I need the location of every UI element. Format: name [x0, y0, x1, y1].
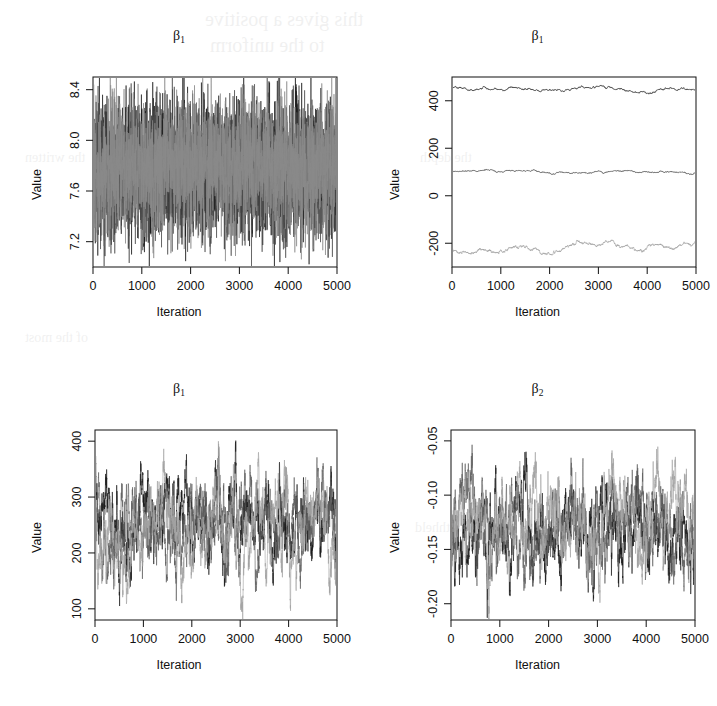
x-tick-label: 0: [92, 632, 99, 646]
trace-line-chain-3: [452, 240, 696, 255]
plot-title: β2: [358, 381, 717, 398]
y-axis-title: Value: [388, 169, 402, 200]
x-tick-label: 0: [449, 279, 456, 293]
x-tick-label: 3000: [226, 632, 254, 646]
panel-bottom-left: 010002000300040005000100200300400β1Itera…: [0, 353, 358, 706]
x-tick-label: 5000: [323, 632, 351, 646]
panel-top-right-canvas: 010002000300040005000-2000200400: [358, 0, 716, 353]
y-tick-label: 300: [70, 487, 84, 508]
x-axis-title: Iteration: [0, 305, 358, 319]
plot-title: β1: [0, 381, 358, 398]
trace-line-chain-3: [95, 441, 337, 623]
plot-title-subscript: 2: [539, 388, 544, 398]
trace-group: [451, 445, 695, 627]
x-tick-label: 4000: [274, 279, 302, 293]
y-tick-label: 8.4: [68, 81, 82, 98]
panel-bottom-right: 010002000300040005000-0.20-0.15-0.10-0.0…: [358, 353, 717, 706]
trace-line-chain-1: [452, 85, 696, 94]
plot-title-subscript: 1: [539, 35, 544, 45]
y-tick-label: -0.10: [426, 481, 440, 510]
trace-group: [452, 85, 696, 255]
x-tick-label: 4000: [633, 279, 661, 293]
y-tick-label: 8.0: [68, 132, 82, 149]
y-tick-label: 400: [427, 90, 441, 111]
x-tick-label: 1000: [128, 279, 156, 293]
x-tick-label: 3000: [583, 632, 611, 646]
x-tick-label: 5000: [681, 632, 709, 646]
panel-top-left: 0100020003000400050007.27.68.08.4β1Itera…: [0, 0, 358, 353]
y-tick-label: 400: [70, 431, 84, 452]
y-tick-label: -0.20: [426, 589, 440, 618]
x-tick-label: 3000: [584, 279, 612, 293]
plot-title-subscript: 1: [180, 35, 185, 45]
trace-line-chain-2: [452, 169, 696, 175]
panel-bottom-left-canvas: 010002000300040005000100200300400: [0, 353, 358, 706]
x-tick-label: 4000: [275, 632, 303, 646]
x-tick-label: 2000: [178, 632, 206, 646]
panel-top-right: 010002000300040005000-2000200400β1Iterat…: [358, 0, 717, 353]
x-tick-label: 2000: [536, 279, 564, 293]
y-tick-label: -0.15: [426, 535, 440, 564]
x-tick-label: 5000: [682, 279, 710, 293]
x-axis-title: Iteration: [358, 658, 717, 672]
panel-bottom-right-canvas: 010002000300040005000-0.20-0.15-0.10-0.0…: [358, 353, 716, 706]
x-tick-label: 0: [448, 632, 455, 646]
plot-title: β1: [0, 28, 358, 45]
y-axis-title: Value: [388, 522, 402, 553]
x-tick-label: 0: [90, 279, 97, 293]
plot-title-base: β: [532, 381, 539, 396]
x-axis-title: Iteration: [358, 305, 717, 319]
y-axis-title: Value: [30, 522, 44, 553]
x-tick-label: 3000: [225, 279, 253, 293]
y-tick-label: 0: [427, 192, 441, 199]
y-tick-label: -0.05: [426, 427, 440, 456]
y-axis-title: Value: [30, 169, 44, 200]
y-tick-label: -200: [427, 231, 441, 256]
x-axis-title: Iteration: [0, 658, 358, 672]
x-tick-label: 2000: [177, 279, 205, 293]
plot-title-base: β: [532, 28, 539, 43]
trace-group: [95, 441, 337, 624]
y-tick-label: 100: [70, 598, 84, 619]
y-tick-label: 7.6: [68, 182, 82, 199]
y-tick-label: 7.2: [68, 233, 82, 250]
x-tick-label: 5000: [323, 279, 351, 293]
x-tick-label: 1000: [129, 632, 157, 646]
trace-group: [93, 59, 337, 290]
x-tick-label: 1000: [487, 279, 515, 293]
y-tick-label: 200: [70, 542, 84, 563]
x-tick-label: 2000: [535, 632, 563, 646]
plot-title-subscript: 1: [180, 388, 185, 398]
panel-top-left-canvas: 0100020003000400050007.27.68.08.4: [0, 0, 358, 353]
x-tick-label: 4000: [632, 632, 660, 646]
plot-title: β1: [358, 28, 717, 45]
y-tick-label: 200: [427, 138, 441, 159]
trace-plot-grid: 0100020003000400050007.27.68.08.4β1Itera…: [0, 0, 717, 706]
x-tick-label: 1000: [486, 632, 514, 646]
